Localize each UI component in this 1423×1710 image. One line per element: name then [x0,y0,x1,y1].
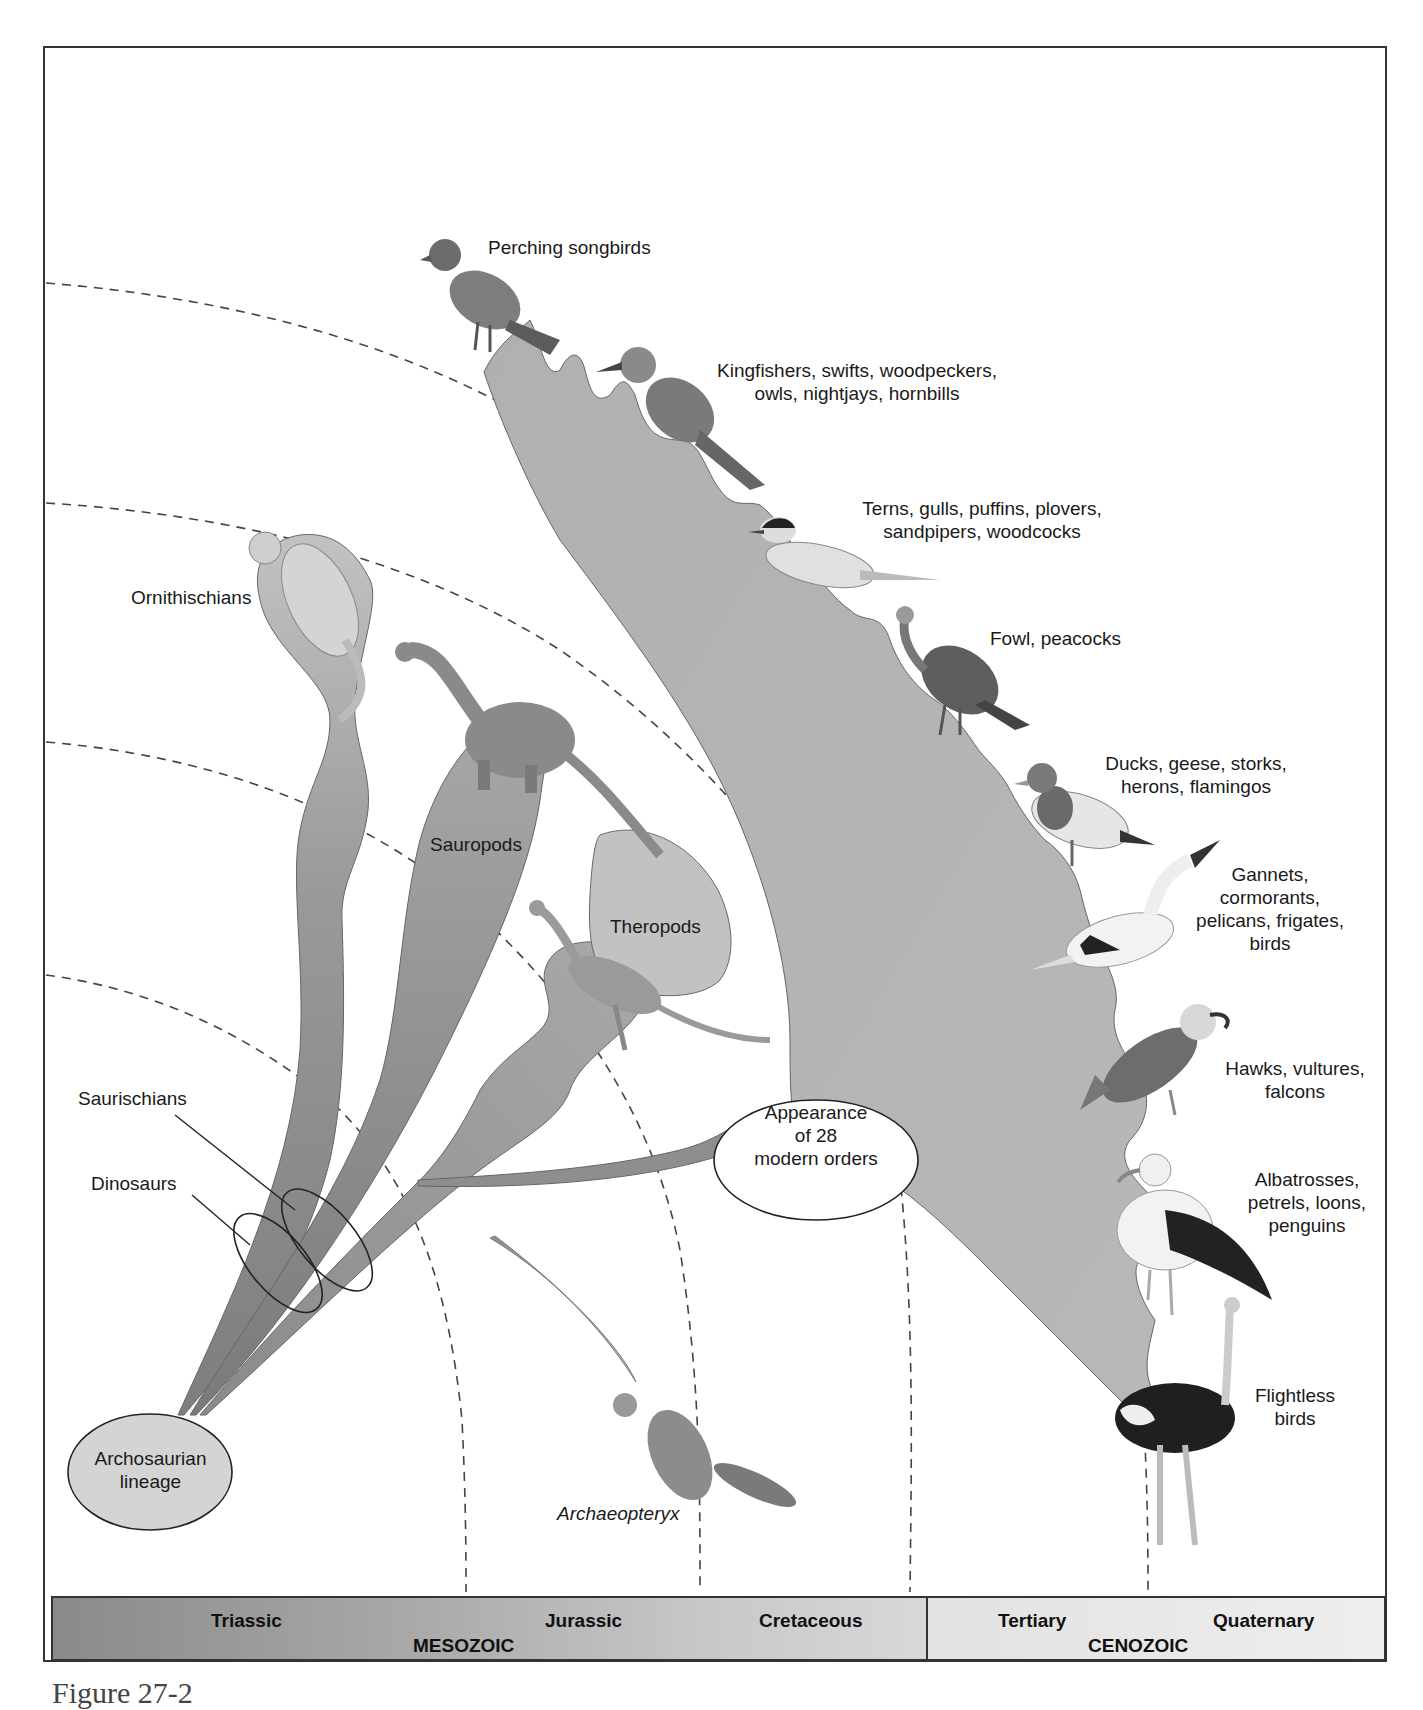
label-line: penguins [1232,1214,1382,1237]
modern-bird-radiation [484,320,1158,1430]
archaeopteryx-icon [613,1393,801,1515]
label-sauropods: Sauropods [430,833,522,856]
label-flightless: Flightless birds [1245,1384,1345,1430]
label-line: pelicans, frigates, [1180,909,1360,932]
label-line: petrels, loons, [1232,1191,1382,1214]
label-archosaurian: Archosaurian lineage [78,1447,223,1493]
label-line: cormorants, [1180,886,1360,909]
era-cenozoic: CENOZOIC [1088,1635,1188,1657]
dinosaurs-leader [192,1195,250,1245]
label-line: lineage [78,1470,223,1493]
label-kingfishers: Kingfishers, swifts, woodpeckers, owls, … [692,359,1022,405]
label-perching-songbirds: Perching songbirds [488,236,651,259]
label-gannets: Gannets, cormorants, pelicans, frigates,… [1180,863,1360,955]
label-line: Gannets, [1180,863,1360,886]
label-line: Ducks, geese, storks, [1096,752,1296,775]
period-jurassic: Jurassic [545,1610,622,1632]
label-terns: Terns, gulls, puffins, plovers, sandpipe… [832,497,1132,543]
label-line: falcons [1210,1080,1380,1103]
label-line: Hawks, vultures, [1210,1057,1380,1080]
label-ornithischians: Ornithischians [131,586,251,609]
label-fowl: Fowl, peacocks [990,627,1121,650]
label-line: birds [1245,1407,1345,1430]
label-line: sandpipers, woodcocks [832,520,1132,543]
label-archaeopteryx: Archaeopteryx [557,1502,680,1525]
label-appearance: Appearance of 28 modern orders [736,1101,896,1170]
label-saurischians: Saurischians [78,1087,187,1110]
geologic-timescale: Triassic Jurassic Cretaceous MESOZOIC Te… [51,1596,1386,1661]
mesozoic-era: Triassic Jurassic Cretaceous MESOZOIC [53,1598,928,1659]
label-line: Appearance [736,1101,896,1124]
label-ducks: Ducks, geese, storks, herons, flamingos [1096,752,1296,798]
period-triassic: Triassic [211,1610,282,1632]
label-line: Albatrosses, [1232,1168,1382,1191]
label-line: of 28 [736,1124,896,1147]
label-hawks: Hawks, vultures, falcons [1210,1057,1380,1103]
figure-caption: Figure 27-2 [52,1676,193,1710]
label-line: modern orders [736,1147,896,1170]
label-albatrosses: Albatrosses, petrels, loons, penguins [1232,1168,1382,1237]
label-dinosaurs: Dinosaurs [91,1172,177,1195]
label-line: Flightless [1245,1384,1345,1407]
cenozoic-era: Tertiary Quaternary CENOZOIC [928,1598,1384,1659]
label-theropods: Theropods [610,915,701,938]
label-line: herons, flamingos [1096,775,1296,798]
period-cretaceous: Cretaceous [759,1610,863,1632]
period-tertiary: Tertiary [998,1610,1066,1632]
period-quaternary: Quaternary [1213,1610,1314,1632]
era-mesozoic: MESOZOIC [413,1635,514,1657]
label-line: Kingfishers, swifts, woodpeckers, [692,359,1022,382]
archaeopteryx-branch [490,1236,636,1382]
label-line: birds [1180,932,1360,955]
label-line: Archosaurian [78,1447,223,1470]
label-line: owls, nightjays, hornbills [692,382,1022,405]
label-line: Terns, gulls, puffins, plovers, [832,497,1132,520]
